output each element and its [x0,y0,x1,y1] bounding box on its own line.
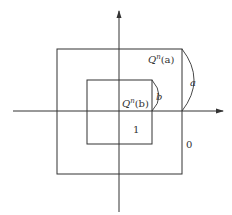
inner-region-label: 1 [133,124,139,135]
outer-region-label: 0 [186,139,192,150]
outer-square-label: Qn(a) [148,53,175,65]
diagram-canvas: Qn(a) a Qn(b) b 1 0 [0,0,232,215]
inner-arc-label: b [156,91,162,102]
inner-square-label: Qn(b) [122,97,149,109]
outer-arc-label: a [190,77,196,88]
